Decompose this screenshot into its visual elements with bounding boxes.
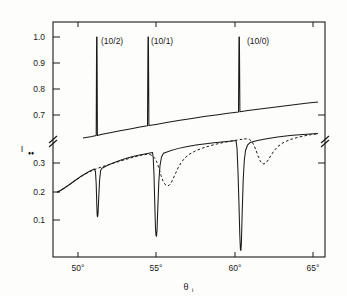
x-axis-title: θ i bbox=[183, 282, 193, 293]
xtick-label-65: 65° bbox=[307, 263, 320, 273]
lower-panel-solid-curve bbox=[57, 133, 318, 250]
ytick-label-0-1: 0.1 bbox=[33, 215, 45, 225]
y-axis-title-main: I bbox=[21, 144, 24, 154]
peak-label-10-2: (10/2) bbox=[101, 36, 123, 46]
xtick-label-55: 55° bbox=[150, 263, 163, 273]
x-axis-title-subscript: i bbox=[192, 287, 193, 293]
ytick-label-0-2: 0.2 bbox=[33, 187, 45, 197]
ytick-label-1-0: 1.0 bbox=[33, 32, 45, 42]
y-axis-title-subscript: ♦♦ bbox=[28, 150, 34, 156]
left-axis-ticks bbox=[53, 37, 60, 220]
plot-frame bbox=[53, 22, 325, 257]
peak-label-10-1: (10/1) bbox=[151, 36, 173, 46]
peak-label-10-0: (10/0) bbox=[247, 36, 269, 46]
xtick-label-50: 50° bbox=[72, 263, 85, 273]
right-axis-ticks bbox=[318, 115, 325, 163]
ytick-label-0-8: 0.8 bbox=[33, 84, 45, 94]
upper-panel-solid-curve bbox=[83, 37, 318, 138]
bottom-axis-ticks bbox=[78, 252, 313, 257]
top-axis-ticks bbox=[78, 22, 313, 27]
chart-plot: 1.0 0.9 0.8 0.7 0.3 0.2 0.1 50° 55° 60° … bbox=[0, 0, 347, 296]
ytick-label-0-7: 0.7 bbox=[33, 110, 45, 120]
figure-container: 1.0 0.9 0.8 0.7 0.3 0.2 0.1 50° 55° 60° … bbox=[0, 0, 347, 296]
xtick-label-60: 60° bbox=[229, 263, 242, 273]
y-axis-title: I ♦♦ bbox=[21, 144, 34, 156]
ytick-label-0-9: 0.9 bbox=[33, 58, 45, 68]
x-axis-title-main: θ bbox=[183, 282, 188, 292]
ytick-label-0-3: 0.3 bbox=[33, 158, 45, 168]
